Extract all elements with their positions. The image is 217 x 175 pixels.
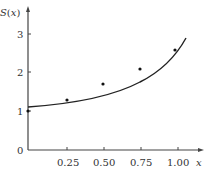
- x-axis-arrow-icon: [198, 148, 204, 152]
- y-axis-arrow-icon: [26, 6, 30, 12]
- y-axis-label: S(x): [0, 7, 20, 18]
- chart: S(x) 0 1 2 3 0.25 0.50 0.75 1.00 x: [0, 0, 217, 175]
- x-tick-3: 0.75: [130, 157, 152, 168]
- y-tick-2: 2: [17, 67, 23, 78]
- x-tick-4: 1.00: [167, 157, 189, 168]
- fitted-curve: [28, 38, 186, 107]
- data-points: [26, 48, 176, 112]
- y-tick-1: 1: [17, 106, 23, 117]
- y-tick-0: 0: [17, 145, 23, 156]
- x-tick-1: 0.25: [57, 157, 79, 168]
- x-axis-label: x: [196, 157, 202, 168]
- y-tick-3: 3: [17, 29, 23, 40]
- x-tick-2: 0.50: [93, 157, 115, 168]
